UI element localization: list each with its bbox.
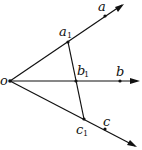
ray-oc <box>10 81 135 146</box>
label-a: a <box>98 0 106 14</box>
point-o <box>8 79 12 83</box>
point-b <box>118 79 121 82</box>
arrow-icon-a <box>115 4 124 12</box>
arrow-icon-b <box>130 78 140 84</box>
point-a <box>103 14 106 17</box>
point-b1 <box>74 79 77 82</box>
label-b: b <box>116 64 124 79</box>
label-o: o <box>0 73 8 88</box>
arrow-icon-c <box>127 140 137 147</box>
labels: o a a 1 b 1 b c 1 c <box>0 0 124 138</box>
ray-diagram: o a a 1 b 1 b c 1 c <box>0 0 142 150</box>
point-a1 <box>66 40 69 43</box>
label-a1: a <box>59 24 67 39</box>
label-b1-sub: 1 <box>84 70 89 79</box>
point-c1 <box>82 117 85 120</box>
label-c1-sub: 1 <box>83 129 88 138</box>
label-c: c <box>103 114 111 129</box>
label-a1-sub: 1 <box>67 31 72 40</box>
